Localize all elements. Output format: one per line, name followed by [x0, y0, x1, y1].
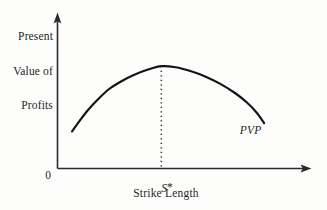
origin-label: 0	[42, 170, 54, 182]
curve-label: PVP	[240, 125, 274, 137]
pvp-curve	[72, 66, 264, 131]
x-axis-label: Strike Length	[108, 188, 224, 200]
y-axis-label-line-2: Value of	[4, 66, 53, 78]
y-axis-label-line-1: Present	[4, 31, 53, 43]
figure-container: Present Value of Profits 0 S* Strike Len…	[0, 0, 327, 210]
y-axis-label-line-3: Profits	[4, 100, 53, 112]
y-axis-label: Present Value of Profits	[4, 8, 53, 135]
